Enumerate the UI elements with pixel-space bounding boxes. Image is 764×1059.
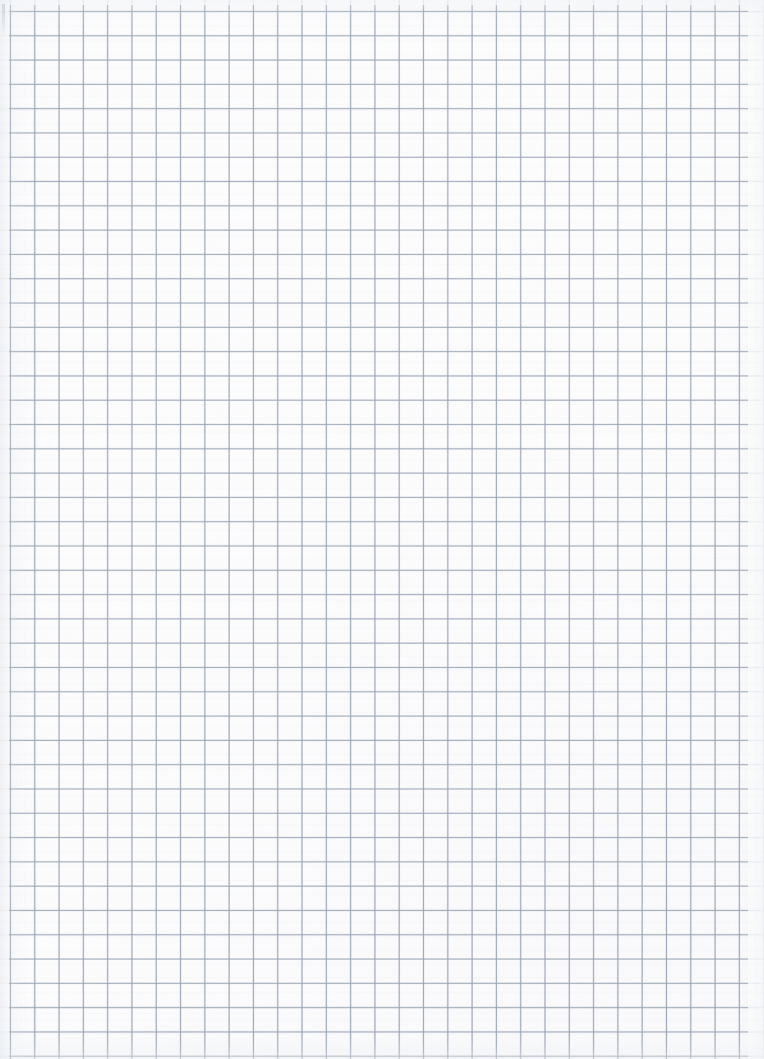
- paper-background: [0, 0, 764, 1059]
- graph-paper-sheet: Scanned sheet of blank quadrille graph p…: [0, 0, 764, 1059]
